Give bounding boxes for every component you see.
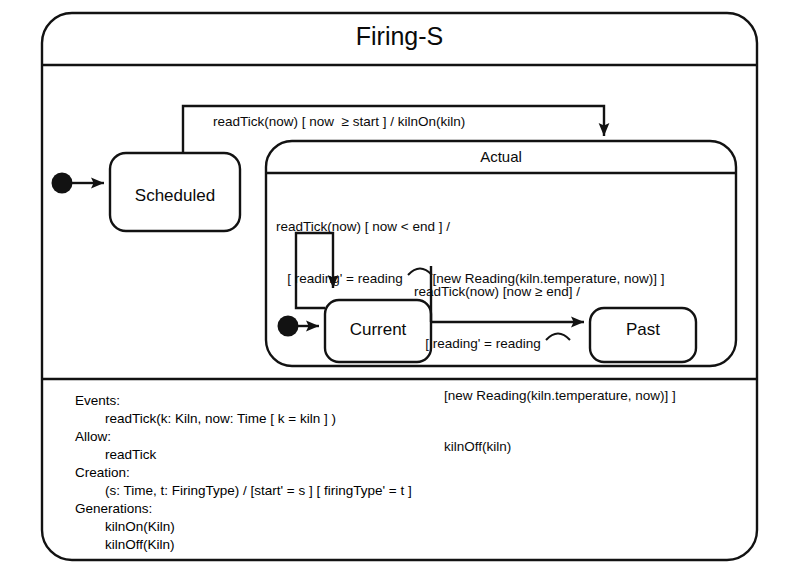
- transition-label-line: kilnOff(kiln): [414, 438, 676, 455]
- transition-label-line: readTick(now) [ now < end ] /: [276, 218, 664, 235]
- transition-label-segment: [ reading' = reading: [414, 336, 545, 351]
- generations-item: kilnOff(Kiln): [75, 536, 412, 554]
- transition-label-segment: [ reading' = reading: [276, 271, 407, 286]
- events-label: Events:: [75, 392, 412, 410]
- creation-item: (s: Time, t: FiringType) / [start' = s ]…: [75, 482, 412, 500]
- transition-label-scheduled-to-actual: readTick(now) [ now ≥ start ] / kilnOn(k…: [213, 78, 465, 164]
- allow-label: Allow:: [75, 428, 412, 446]
- state-label-scheduled: Scheduled: [110, 186, 240, 206]
- transition-label-line: readTick(now) [now ≥ end] /: [414, 283, 676, 300]
- transition-label-line: readTick(now) [ now ≥ start ] / kilnOn(k…: [213, 113, 465, 130]
- statechart-canvas: Firing-S Scheduled Actual Current Past r…: [0, 0, 791, 576]
- generations-item: kilnOn(Kiln): [75, 518, 412, 536]
- page-title: Firing-S: [42, 22, 757, 51]
- specification-compartment: Events: readTick(k: Kiln, now: Time [ k …: [75, 392, 412, 554]
- events-item: readTick(k: Kiln, now: Time [ k = kiln ]…: [75, 410, 412, 428]
- transition-label-line: [new Reading(kiln.temperature, now)] ]: [414, 387, 676, 404]
- generations-label: Generations:: [75, 500, 412, 518]
- allow-item: readTick: [75, 446, 412, 464]
- transition-label-current-to-past: readTick(now) [now ≥ end] / [ reading' =…: [414, 248, 676, 490]
- creation-label: Creation:: [75, 464, 412, 482]
- transition-label-line: [ reading' = reading: [414, 334, 676, 352]
- concatenation-arc-icon: [545, 334, 571, 348]
